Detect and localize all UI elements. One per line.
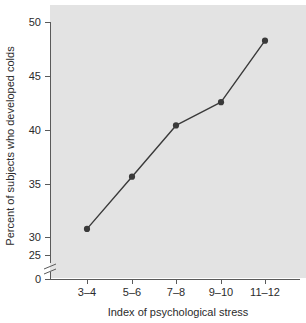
data-point (173, 122, 179, 128)
chart-canvas: 50 45 40 35 30 25 0 3–4 5–6 7–8 9–10 11–… (0, 0, 306, 323)
x-axis-title: Index of psychological stress (108, 306, 249, 318)
y-axis-title: Percent of subjects who developed colds (4, 46, 16, 246)
series-markers (84, 38, 268, 232)
y-tick-label-35: 35 (29, 178, 41, 190)
y-tick-label-40: 40 (29, 124, 41, 136)
series-line (87, 41, 265, 229)
x-axis-ticks (87, 279, 265, 284)
x-tick-label-2: 5–6 (123, 286, 141, 298)
x-tick-label-5: 11–12 (250, 286, 280, 298)
y-tick-label-45: 45 (29, 70, 41, 82)
y-tick-label-25: 25 (29, 249, 41, 261)
y-axis-ticks (45, 22, 50, 279)
data-series-group (84, 38, 268, 232)
y-tick-label-0: 0 (35, 273, 41, 285)
x-tick-label-3: 7–8 (167, 286, 185, 298)
data-point (262, 38, 268, 44)
data-point (84, 226, 90, 232)
data-point (218, 99, 224, 105)
data-point (129, 174, 135, 180)
x-tick-label-4: 9–10 (209, 286, 233, 298)
y-tick-label-50: 50 (29, 16, 41, 28)
x-tick-label-1: 3–4 (78, 286, 96, 298)
y-tick-label-30: 30 (29, 231, 41, 243)
chart-figure: 50 45 40 35 30 25 0 3–4 5–6 7–8 9–10 11–… (0, 0, 306, 323)
